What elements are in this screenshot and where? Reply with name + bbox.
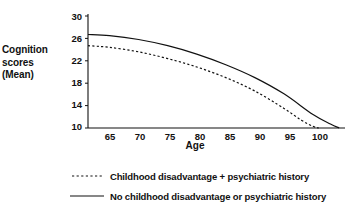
legend-label-no-disadvantage: No childhood disadvantage or psychiatric… (110, 191, 326, 202)
axes (85, 14, 345, 128)
legend-solid-line-icon (70, 190, 110, 202)
chart-figure: Cognition scores (Mean) 30 26 22 18 14 1… (0, 0, 352, 215)
legend-item-disadvantage: Childhood disadvantage + psychiatric his… (70, 166, 352, 186)
legend-dashed-line-icon (70, 170, 110, 182)
series-line-no-disadvantage (88, 34, 339, 128)
series-line-disadvantage (88, 46, 319, 128)
legend-item-no-disadvantage: No childhood disadvantage or psychiatric… (70, 186, 352, 206)
chart-legend: Childhood disadvantage + psychiatric his… (70, 166, 352, 206)
legend-label-disadvantage: Childhood disadvantage + psychiatric his… (110, 171, 309, 182)
x-axis-title: Age (160, 140, 230, 151)
